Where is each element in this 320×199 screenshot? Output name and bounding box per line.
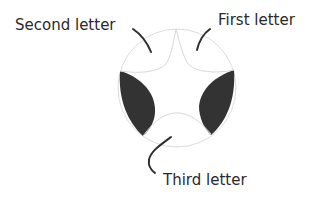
first-letter-label: First letter bbox=[218, 11, 296, 29]
left-dark-region bbox=[120, 71, 155, 136]
third-letter-pointer bbox=[149, 137, 171, 173]
star-upper-right-arc bbox=[176, 29, 234, 72]
second-letter-label: Second letter bbox=[15, 16, 116, 34]
third-letter-label: Third letter bbox=[162, 171, 247, 189]
right-dark-region bbox=[199, 70, 234, 135]
star-upper-left-arc bbox=[120, 29, 176, 72]
letter-diagram: Second letter First letter Third letter bbox=[0, 0, 320, 199]
diagram-canvas: Second letter First letter Third letter bbox=[0, 0, 320, 199]
first-letter-pointer bbox=[197, 29, 210, 50]
